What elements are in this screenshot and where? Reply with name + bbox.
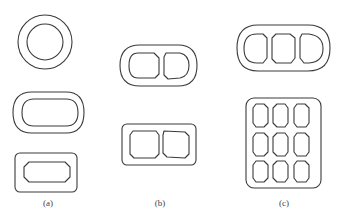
panel-b-label: (b) xyxy=(145,198,175,208)
panel-c-label: (c) xyxy=(269,198,299,208)
circular-ring-section xyxy=(18,15,72,69)
panel-c xyxy=(237,25,330,188)
rounded-rect-two-cell-section xyxy=(122,124,196,165)
stadium-three-cell-section xyxy=(237,25,330,71)
panel-b xyxy=(120,45,197,165)
panel-a xyxy=(13,15,84,192)
rounded-rect-nine-cell-section xyxy=(246,98,321,188)
rounded-rect-octagon-section xyxy=(15,153,77,192)
stadium-two-cell-section xyxy=(120,45,197,86)
cross-section-diagram xyxy=(0,0,337,219)
stadium-ring-section xyxy=(13,92,84,133)
panel-a-label: (a) xyxy=(33,198,63,208)
